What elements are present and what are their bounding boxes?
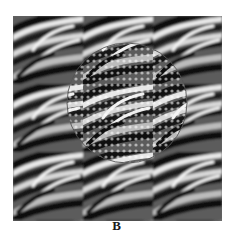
stripe-texture <box>13 16 222 221</box>
circle-center-marker <box>126 102 128 104</box>
panel-label: B <box>0 218 233 234</box>
texture-image-panel <box>13 16 222 221</box>
figure: B <box>0 0 233 235</box>
